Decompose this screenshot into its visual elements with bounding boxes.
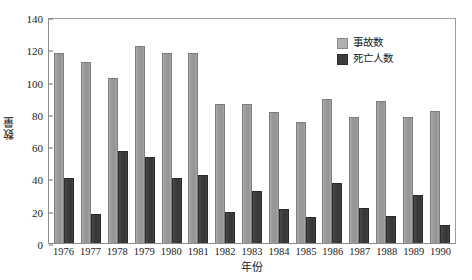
bar-accidents-1990 <box>430 111 440 243</box>
legend-label-accidents: 事故数 <box>353 38 383 49</box>
x-axis-tick-label: 1979 <box>131 247 158 258</box>
bar-group-1977 <box>78 19 105 243</box>
legend-item-accidents: 事故数 <box>337 38 393 49</box>
bar-deaths-1978 <box>118 151 128 243</box>
bar-deaths-1985 <box>306 217 316 243</box>
x-axis-tick-label: 1986 <box>319 247 346 258</box>
bar-deaths-1987 <box>359 208 369 244</box>
bar-accidents-1984 <box>269 112 279 243</box>
bar-accidents-1976 <box>54 53 64 243</box>
bar-accidents-1980 <box>162 53 172 243</box>
bar-group-1979 <box>131 19 158 243</box>
x-axis-tick-label: 1983 <box>239 247 266 258</box>
bar-accidents-1985 <box>296 122 306 243</box>
bar-deaths-1982 <box>225 212 235 243</box>
x-axis-tick-label: 1987 <box>346 247 373 258</box>
legend-swatch-icon-accidents <box>337 38 348 49</box>
bar-accidents-1981 <box>188 53 198 243</box>
x-axis-tick-label: 1985 <box>292 247 319 258</box>
bar-deaths-1983 <box>252 191 262 243</box>
bar-deaths-1979 <box>145 157 155 243</box>
x-axis-tick-label: 1976 <box>50 247 77 258</box>
x-axis-tick-label: 1981 <box>185 247 212 258</box>
x-axis-tick-label: 1982 <box>212 247 239 258</box>
bar-group-1978 <box>105 19 132 243</box>
y-axis-tick-label: 120 <box>27 46 50 57</box>
plot-area: 140120100806040200 <box>48 18 456 244</box>
x-axis-tick-label: 1988 <box>373 247 400 258</box>
x-axis-tick-label: 1977 <box>77 247 104 258</box>
x-axis-tick-label: 1990 <box>427 247 454 258</box>
y-axis-title: 数量 <box>4 116 15 140</box>
y-axis-tick-label: 20 <box>32 207 49 218</box>
bar-accidents-1986 <box>322 99 332 243</box>
bar-accidents-1982 <box>215 104 225 243</box>
bar-deaths-1989 <box>413 195 423 243</box>
bar-deaths-1980 <box>172 178 182 243</box>
bars-layer <box>49 19 455 243</box>
y-axis-tick-label: 140 <box>27 14 50 25</box>
y-axis-tick-label: 100 <box>27 78 50 89</box>
bar-group-1976 <box>51 19 78 243</box>
bar-group-1990 <box>426 19 453 243</box>
legend-swatch-icon-deaths <box>337 54 348 65</box>
y-axis-tick-label: 40 <box>32 175 49 186</box>
bar-accidents-1977 <box>81 62 91 243</box>
bar-accidents-1978 <box>108 78 118 243</box>
bar-accidents-1983 <box>242 104 252 243</box>
bar-group-1982 <box>212 19 239 243</box>
x-axis-title: 年份 <box>48 262 456 273</box>
bar-group-1989 <box>399 19 426 243</box>
x-axis-tick-label: 1984 <box>266 247 293 258</box>
bar-accidents-1979 <box>135 46 145 243</box>
bar-accidents-1989 <box>403 117 413 243</box>
x-axis-tick-label: 1989 <box>400 247 427 258</box>
bar-accidents-1988 <box>376 101 386 243</box>
bar-group-1980 <box>158 19 185 243</box>
bar-deaths-1990 <box>440 225 450 243</box>
legend: 事故数 死亡人数 <box>337 38 393 65</box>
legend-item-deaths: 死亡人数 <box>337 54 393 65</box>
bar-group-1981 <box>185 19 212 243</box>
bar-group-1983 <box>239 19 266 243</box>
bar-deaths-1984 <box>279 209 289 243</box>
bar-deaths-1988 <box>386 216 396 243</box>
bar-chart: 数量 140120100806040200 197619771978197919… <box>0 0 472 280</box>
bar-group-1985 <box>292 19 319 243</box>
x-axis-tick-group: 1976197719781979198019811982198319841985… <box>48 247 456 258</box>
x-axis-tick-label: 1978 <box>104 247 131 258</box>
bar-group-1984 <box>265 19 292 243</box>
bar-deaths-1977 <box>91 214 101 243</box>
y-axis-tick-label: 80 <box>32 110 49 121</box>
x-axis-tick-label: 1980 <box>158 247 185 258</box>
legend-label-deaths: 死亡人数 <box>353 54 393 65</box>
bar-accidents-1987 <box>349 117 359 243</box>
bar-deaths-1981 <box>198 175 208 243</box>
bar-deaths-1986 <box>332 183 342 243</box>
bar-deaths-1976 <box>64 178 74 243</box>
y-axis-tick-label: 60 <box>32 143 49 154</box>
